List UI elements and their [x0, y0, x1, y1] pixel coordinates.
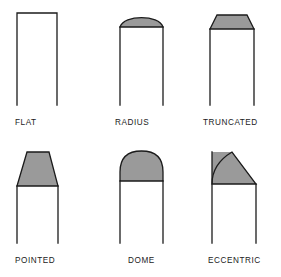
pointed-nose-fill [17, 152, 58, 186]
shape-truncated [210, 15, 254, 105]
caption-flat: FLAT [15, 118, 37, 128]
dome-nose-fill [120, 151, 163, 181]
radius-nose-fill [120, 18, 163, 27]
caption-dome: DOME [128, 256, 155, 266]
caption-pointed: POINTED [15, 256, 55, 266]
shape-flat [17, 13, 57, 105]
shape-dome [120, 151, 163, 243]
shape-radius [120, 18, 163, 105]
caption-radius: RADIUS [115, 118, 149, 128]
shape-pointed [17, 152, 58, 243]
flat-outline [17, 13, 57, 105]
shape-eccentric [212, 152, 256, 243]
truncated-nose-fill [210, 15, 254, 29]
caption-truncated: TRUNCATED [203, 118, 258, 128]
nose-profile-figure: FLAT RADIUS TRUNCATED POINTED DOME ECCEN… [0, 0, 281, 277]
caption-eccentric: ECCENTRIC [208, 256, 261, 266]
nose-profile-drawings [0, 0, 281, 277]
